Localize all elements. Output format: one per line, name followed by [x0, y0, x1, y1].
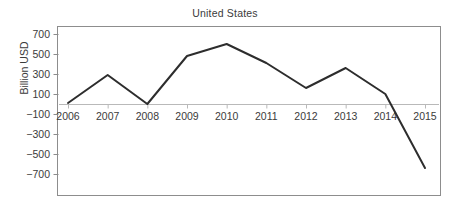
x-axis-ticks: 2006200720082009201020112012201320142015	[56, 105, 437, 123]
line-chart-plot: 700500300100−100−300−500−700 20062007200…	[0, 0, 450, 207]
chart-figure: United States Billion USD 700500300100−1…	[0, 0, 450, 207]
y-tick-label: 500	[32, 48, 50, 60]
x-tick-label: 2007	[96, 110, 120, 122]
y-tick-label: 300	[32, 68, 50, 80]
x-tick-label: 2009	[175, 110, 199, 122]
data-series-group	[68, 44, 425, 168]
x-tick-label: 2015	[413, 110, 437, 122]
y-tick-label: −500	[26, 148, 50, 160]
x-tick-label: 2008	[136, 110, 160, 122]
x-tick-label: 2010	[215, 110, 239, 122]
y-tick-label: 700	[32, 28, 50, 40]
x-tick-label: 2014	[374, 110, 398, 122]
x-tick-label: 2011	[255, 110, 278, 122]
x-tick-label: 2006	[56, 110, 80, 122]
y-tick-label: −700	[26, 168, 50, 180]
x-tick-label: 2013	[334, 110, 358, 122]
y-tick-label: 100	[32, 88, 50, 100]
y-tick-label: −300	[26, 128, 50, 140]
y-tick-label: −100	[26, 108, 50, 120]
y-axis-ticks: 700500300100−100−300−500−700	[26, 28, 58, 180]
x-tick-label: 2012	[294, 110, 318, 122]
data-series-line	[68, 44, 425, 168]
